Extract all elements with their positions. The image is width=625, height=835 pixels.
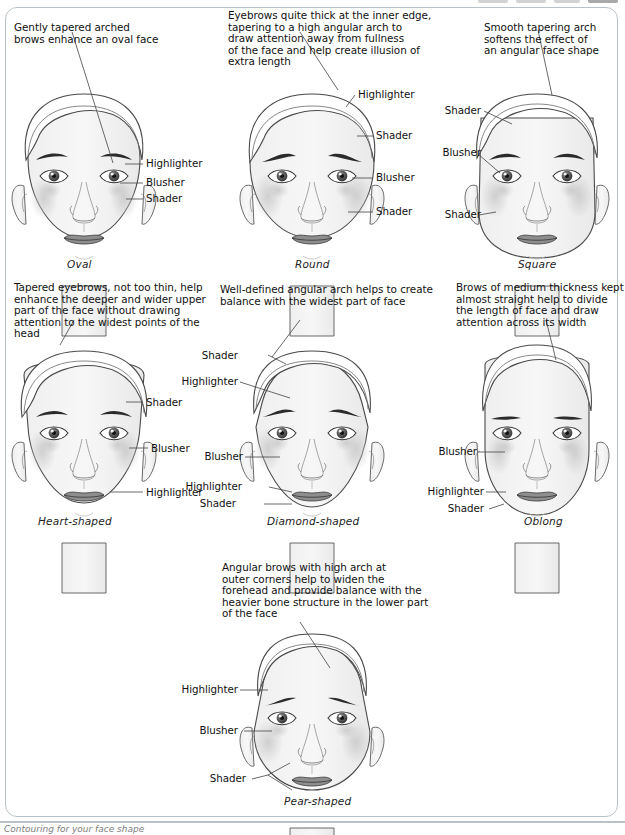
callout-diamond-shader-top: Shader <box>192 349 238 361</box>
callout-diamond-highlighter-chin: Highlighter <box>176 480 242 492</box>
face-diamond-shaped <box>240 351 384 593</box>
callout-round-blusher: Blusher <box>376 171 415 183</box>
callout-diamond-highlighter-brow: Highlighter <box>172 375 238 387</box>
panel-pear-description: Angular brows with high arch at outer co… <box>222 562 447 620</box>
caption-diamond-shaped: Diamond-shaped <box>267 515 359 527</box>
callout-round-highlighter: Highlighter <box>358 88 415 100</box>
caption-oval: Oval <box>67 258 92 270</box>
page-bottom-rule <box>0 821 625 823</box>
callout-oblong-shader: Shader <box>438 502 484 514</box>
caption-oblong: Oblong <box>524 515 563 527</box>
callout-heart-blusher: Blusher <box>151 442 190 454</box>
callout-diamond-blusher: Blusher <box>190 450 243 462</box>
callout-round-shader-jaw: Shader <box>376 205 412 217</box>
caption-heart-shaped: Heart-shaped <box>38 515 112 527</box>
callout-oval-highlighter: Highlighter <box>146 157 203 169</box>
caption-square: Square <box>518 258 556 270</box>
footer-caption: Contouring for your face shape <box>4 824 264 835</box>
face-shapes-illustration <box>0 0 625 835</box>
caption-round: Round <box>295 258 330 270</box>
callout-square-shader-jaw: Shader <box>433 208 481 220</box>
callout-heart-shader: Shader <box>146 396 182 408</box>
panel-round-description: Eyebrows quite thick at the inner edge, … <box>228 10 443 68</box>
callout-square-blusher: Blusher <box>428 146 481 158</box>
panel-oval-description: Gently tapered arched brows enhance an o… <box>14 22 204 45</box>
callout-round-shader-top: Shader <box>376 129 412 141</box>
face-oblong <box>465 345 609 593</box>
callout-diamond-shader-jaw: Shader <box>190 497 236 509</box>
panel-diamond-description: Well-defined angular arch helps to creat… <box>220 284 438 307</box>
panel-oblong-description: Brows of medium thickness kept almost st… <box>456 282 625 328</box>
callout-pear-highlighter: Highlighter <box>176 683 238 695</box>
callout-oval-shader: Shader <box>146 192 182 204</box>
callout-oblong-blusher: Blusher <box>424 445 477 457</box>
callout-square-shader-top: Shader <box>437 104 481 116</box>
panel-heart-description: Tapered eyebrows, not too thin, help enh… <box>14 282 214 340</box>
face-heart-shaped <box>12 351 156 593</box>
callout-oblong-highlighter: Highlighter <box>418 485 484 497</box>
callout-pear-shader: Shader <box>200 772 246 784</box>
callout-oval-blusher: Blusher <box>146 176 185 188</box>
caption-pear-shaped: Pear-shaped <box>284 795 351 807</box>
callout-pear-blusher: Blusher <box>186 724 238 736</box>
panel-square-description: Smooth tapering arch softens the effect … <box>484 22 625 57</box>
